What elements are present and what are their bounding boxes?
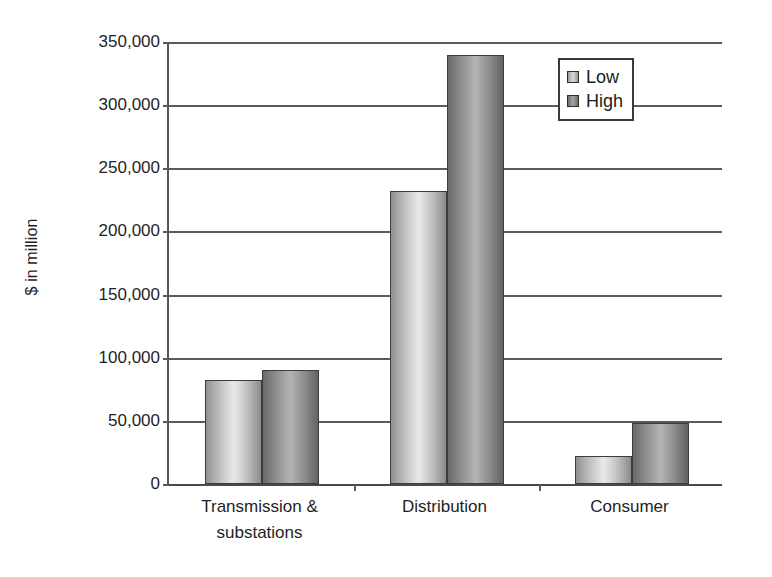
y-axis-tick-label: 300,000 <box>60 96 160 113</box>
x-axis-category-labels: Transmission &substationsDistributionCon… <box>167 494 722 564</box>
legend-swatch-high-icon <box>567 95 579 107</box>
legend-item-high: High <box>567 89 623 113</box>
y-axis-tick-label: 250,000 <box>60 159 160 176</box>
x-axis-label: Transmission &substations <box>167 494 352 546</box>
y-axis-tick-label: 200,000 <box>60 222 160 239</box>
y-axis-tick-label: 100,000 <box>60 349 160 366</box>
y-axis-title: $ in million <box>23 187 41 327</box>
legend: Low High <box>558 58 634 121</box>
legend-label-low: Low <box>586 68 619 86</box>
bar-group <box>169 42 354 484</box>
bar-high <box>632 423 689 484</box>
y-axis-tick-labels: 050,000100,000150,000200,000250,000300,0… <box>52 0 160 577</box>
legend-item-low: Low <box>567 65 623 89</box>
legend-label-high: High <box>586 92 623 110</box>
x-axis-label: Distribution <box>352 494 537 520</box>
category-separator <box>539 484 541 491</box>
legend-swatch-low-icon <box>567 71 579 83</box>
y-axis-tick-label: 50,000 <box>60 412 160 429</box>
y-axis-tick <box>163 484 169 486</box>
bar-low <box>575 456 632 484</box>
bar-high <box>447 55 504 484</box>
bar-low <box>205 380 262 484</box>
y-axis-tick-label: 150,000 <box>60 286 160 303</box>
bar-high <box>262 370 319 484</box>
bar-chart: $ in million 050,000100,000150,000200,00… <box>0 0 772 577</box>
x-axis-label-line: Distribution <box>402 497 487 516</box>
x-axis-label-line: substations <box>167 520 352 546</box>
category-separator <box>354 484 356 491</box>
bar-group <box>354 42 539 484</box>
y-axis-tick-label: 0 <box>60 475 160 492</box>
bar-low <box>390 191 447 484</box>
gridline <box>169 484 722 486</box>
x-axis-label: Consumer <box>537 494 722 520</box>
y-axis-tick-label: 350,000 <box>60 33 160 50</box>
x-axis-label-line: Transmission & <box>201 497 318 516</box>
plot-area: Low High <box>167 42 722 484</box>
x-axis-label-line: Consumer <box>590 497 668 516</box>
